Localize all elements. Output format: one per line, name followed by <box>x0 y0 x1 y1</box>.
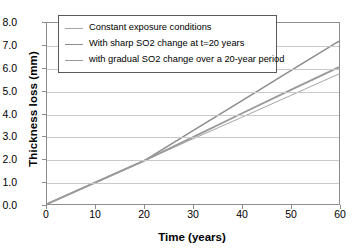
y-tick-label: 0.0 <box>0 199 17 211</box>
y-tick-mark <box>42 45 46 46</box>
x-tick-label: 20 <box>124 208 164 220</box>
legend-item: with gradual SO2 change over a 20-year p… <box>62 52 272 68</box>
y-tick-mark <box>42 159 46 160</box>
y-tick-label: 8.0 <box>0 16 17 28</box>
gridline <box>47 183 339 184</box>
legend-swatch-line-icon <box>65 60 83 61</box>
x-tick-mark <box>340 205 341 209</box>
y-tick-mark <box>42 68 46 69</box>
legend-swatch-line-icon <box>65 44 83 45</box>
x-tick-mark <box>46 205 47 209</box>
x-tick-mark <box>193 205 194 209</box>
legend-label: Constant exposure conditions <box>89 23 212 32</box>
y-tick-mark <box>42 22 46 23</box>
x-axis-title: Time (years) <box>42 231 342 243</box>
legend-label: With sharp SO2 change at t=20 years <box>89 39 244 48</box>
chart-legend: Constant exposure conditionsWith sharp S… <box>58 15 277 73</box>
chart-figure: Thickness loss (mm) Time (years) 0.01.02… <box>0 0 360 251</box>
x-tick-mark <box>291 205 292 209</box>
y-tick-label: 1.0 <box>0 176 17 188</box>
legend-item: Constant exposure conditions <box>62 20 272 36</box>
y-axis-title: Thickness loss (mm) <box>27 24 39 194</box>
x-tick-label: 10 <box>75 208 115 220</box>
gridline <box>47 92 339 93</box>
y-tick-mark <box>42 136 46 137</box>
x-tick-label: 50 <box>271 208 311 220</box>
y-tick-label: 5.0 <box>0 85 17 97</box>
legend-swatch-line-icon <box>65 28 83 29</box>
y-tick-label: 7.0 <box>0 39 17 51</box>
y-tick-mark <box>42 114 46 115</box>
x-tick-label: 0 <box>26 208 66 220</box>
legend-item: With sharp SO2 change at t=20 years <box>62 36 272 52</box>
y-tick-mark <box>42 91 46 92</box>
x-tick-mark <box>242 205 243 209</box>
x-tick-label: 30 <box>173 208 213 220</box>
gridline <box>47 160 339 161</box>
x-tick-mark <box>144 205 145 209</box>
gridline <box>47 115 339 116</box>
y-tick-label: 4.0 <box>0 108 17 120</box>
x-tick-mark <box>95 205 96 209</box>
y-tick-label: 3.0 <box>0 130 17 142</box>
gridline <box>47 137 339 138</box>
y-tick-mark <box>42 182 46 183</box>
x-tick-label: 40 <box>222 208 262 220</box>
y-tick-label: 6.0 <box>0 62 17 74</box>
y-tick-label: 2.0 <box>0 153 17 165</box>
legend-label: with gradual SO2 change over a 20-year p… <box>89 55 284 64</box>
x-tick-label: 60 <box>320 208 360 220</box>
